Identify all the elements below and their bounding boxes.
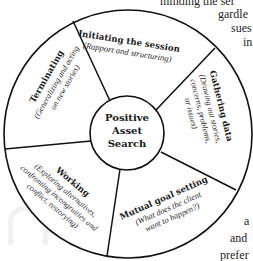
background-text-line: gardle [218, 7, 248, 21]
background-text-line: in [243, 35, 252, 49]
center-label-line: Positive [105, 112, 149, 123]
circular-process-diagram: minding the ser gardle sues in a and pre… [0, 0, 253, 261]
background-text-line: a [244, 214, 250, 228]
background-text-line: and [230, 231, 247, 245]
center-label-line: Search [108, 138, 147, 149]
figure: minding the ser gardle sues in a and pre… [0, 0, 253, 261]
background-text-line: sues [231, 21, 252, 35]
center-label-line: Asset [111, 125, 142, 136]
background-text-line: prefer [220, 248, 249, 261]
